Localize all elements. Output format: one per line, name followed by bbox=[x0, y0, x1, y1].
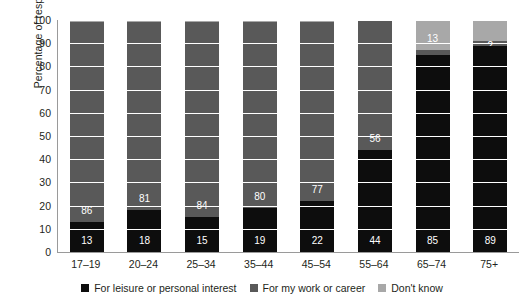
legend-item[interactable]: For leisure or personal interest bbox=[81, 282, 236, 294]
bar-segment-work[interactable]: 81 bbox=[127, 22, 161, 210]
bar-group: 8415 bbox=[185, 20, 219, 252]
plot-inner: 8613811884158019772256441385289 bbox=[58, 20, 519, 252]
bar-segment-leisure[interactable]: 22 bbox=[300, 201, 334, 252]
x-tick-3: 25–34 bbox=[171, 258, 231, 270]
stacked-bar[interactable]: 289 bbox=[473, 20, 507, 252]
x-tick-7: 65–74 bbox=[402, 258, 462, 270]
bar-value-label: 86 bbox=[70, 206, 104, 216]
legend-label: Don't know bbox=[391, 282, 443, 294]
bar-value-label: 18 bbox=[127, 236, 161, 246]
bar-segment-leisure[interactable]: 13 bbox=[70, 222, 104, 252]
legend-label: For leisure or personal interest bbox=[94, 282, 236, 294]
legend-swatch-dontknow-icon bbox=[378, 284, 386, 292]
bar-group: 5644 bbox=[358, 20, 392, 252]
bar-value-label: 13 bbox=[416, 34, 450, 44]
bar-value-label: 56 bbox=[358, 134, 392, 144]
x-tick-1: 17–19 bbox=[56, 258, 116, 270]
bar-group: 7722 bbox=[300, 20, 334, 252]
y-axis-title: Percentage of respondents bbox=[32, 0, 44, 142]
bar-segment-work[interactable]: 86 bbox=[70, 22, 104, 222]
bar-group: 289 bbox=[473, 20, 507, 252]
legend-item[interactable]: For my work or career bbox=[250, 282, 366, 294]
stacked-bar[interactable]: 8415 bbox=[185, 20, 219, 252]
bar-group: 8118 bbox=[127, 20, 161, 252]
y-tick-10: 10 bbox=[18, 223, 51, 235]
bar-value-label: 19 bbox=[243, 236, 277, 246]
legend-swatch-leisure-icon bbox=[81, 284, 89, 292]
bar-segment-dk[interactable]: 13 bbox=[416, 20, 450, 50]
stacked-bar[interactable]: 8019 bbox=[243, 20, 277, 252]
stacked-bar[interactable]: 5644 bbox=[358, 20, 392, 252]
bar-group: 1385 bbox=[416, 20, 450, 252]
bar-segment-work[interactable]: 80 bbox=[243, 22, 277, 208]
plot-area: 8613811884158019772256441385289 bbox=[57, 20, 519, 253]
bar-group: 8019 bbox=[243, 20, 277, 252]
bar-value-label: 89 bbox=[473, 236, 507, 246]
y-tick-40: 40 bbox=[18, 153, 51, 165]
x-tick-5: 45–54 bbox=[286, 258, 346, 270]
bar-segment-leisure[interactable]: 19 bbox=[243, 208, 277, 252]
bar-value-label: 80 bbox=[243, 192, 277, 202]
bar-value-label: 22 bbox=[300, 236, 334, 246]
bar-segment-work[interactable]: 84 bbox=[185, 22, 219, 217]
stacked-bar[interactable]: 8613 bbox=[70, 20, 104, 252]
bar-segment-leisure[interactable]: 85 bbox=[416, 55, 450, 252]
x-tick-4: 35–44 bbox=[229, 258, 289, 270]
bar-segment-leisure[interactable]: 18 bbox=[127, 210, 161, 252]
stacked-bar[interactable]: 8118 bbox=[127, 20, 161, 252]
bar-segment-dk[interactable] bbox=[473, 20, 507, 41]
bar-value-label: 44 bbox=[358, 236, 392, 246]
y-tick-0: 0 bbox=[18, 246, 51, 258]
bar-value-label: 81 bbox=[127, 194, 161, 204]
bar-segment-leisure[interactable]: 89 bbox=[473, 46, 507, 252]
x-tick-6: 55–64 bbox=[344, 258, 404, 270]
stacked-bar[interactable]: 1385 bbox=[416, 20, 450, 252]
x-tick-8: 75+ bbox=[459, 258, 519, 270]
legend-item[interactable]: Don't know bbox=[378, 282, 443, 294]
stacked-bar[interactable]: 7722 bbox=[300, 20, 334, 252]
bar-group: 8613 bbox=[70, 20, 104, 252]
bar-value-label: 77 bbox=[300, 185, 334, 195]
bar-segment-work[interactable]: 56 bbox=[358, 20, 392, 150]
bar-segment-work[interactable]: 77 bbox=[300, 22, 334, 201]
legend-swatch-work-icon bbox=[250, 284, 258, 292]
bar-value-label: 85 bbox=[416, 236, 450, 246]
x-tick-2: 20–24 bbox=[113, 258, 173, 270]
bar-value-label: 15 bbox=[185, 236, 219, 246]
y-tick-20: 20 bbox=[18, 200, 51, 212]
y-tick-30: 30 bbox=[18, 176, 51, 188]
bar-segment-leisure[interactable]: 44 bbox=[358, 150, 392, 252]
stacked-bar-chart: Percentage of respondents 10090807060504… bbox=[0, 0, 524, 303]
legend-label: For my work or career bbox=[263, 282, 366, 294]
bar-value-label: 13 bbox=[70, 236, 104, 246]
chart-legend: For leisure or personal interestFor my w… bbox=[0, 282, 524, 294]
bar-segment-leisure[interactable]: 15 bbox=[185, 217, 219, 252]
bar-value-label: 84 bbox=[185, 201, 219, 211]
